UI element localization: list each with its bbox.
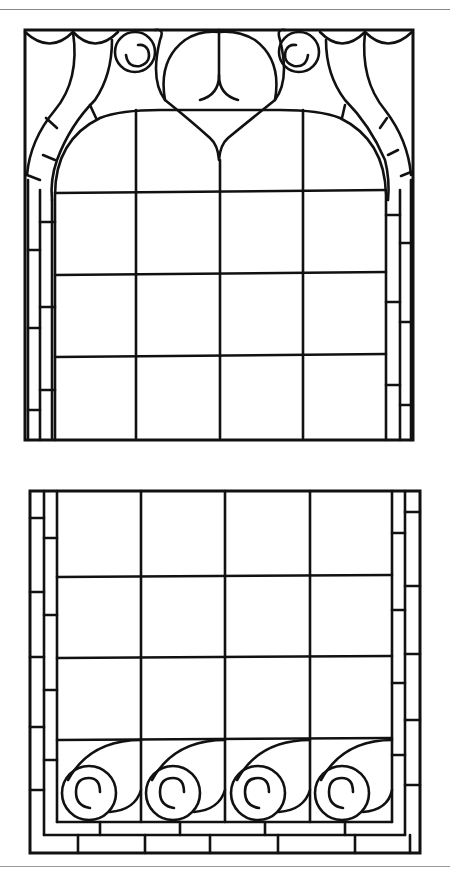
scroll-4: [315, 740, 392, 820]
stained-glass-drawing: [0, 0, 450, 881]
bottom-panel: [30, 491, 420, 853]
scroll-1: [62, 740, 141, 820]
top-panel: [25, 30, 413, 440]
footer-rule: [0, 866, 450, 867]
scroll-3: [231, 740, 310, 820]
scroll-2: [146, 740, 225, 820]
